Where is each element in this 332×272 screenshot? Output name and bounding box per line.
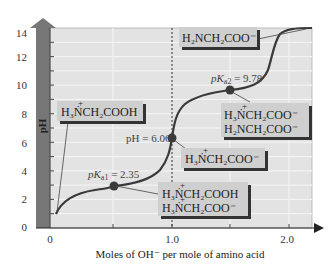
svg-text:12: 12: [16, 51, 27, 63]
y-axis-title: pH: [36, 118, 48, 133]
pi-label: pH = 6.06: [126, 132, 171, 144]
x-axis-title: Moles of OH⁻ per mole of amino acid: [96, 248, 265, 260]
svg-text:H₃ṄCH₂COOH: H₃ṄCH₂COOH: [162, 187, 239, 201]
y-tick-labels: 14 12 10 8 6 4 2 0: [16, 27, 28, 233]
pka1-label: pKa1 = 2.35: [87, 168, 140, 182]
box-deprotonated: H₂NCH₂COO⁻: [179, 27, 260, 50]
titration-chart: pH 14 12 10 8 6 4 2 0 0 1.0 2.0 Moles of…: [0, 0, 332, 272]
svg-text:0: 0: [22, 221, 28, 233]
svg-text:4: 4: [22, 165, 28, 177]
svg-text:8: 8: [22, 108, 28, 120]
svg-text:2: 2: [22, 193, 28, 205]
svg-text:H₂NCH₂COO⁻: H₂NCH₂COO⁻: [224, 122, 298, 136]
svg-text:H₃ṄCH₂COO⁻: H₃ṄCH₂COO⁻: [162, 201, 236, 215]
box-fully-protonated: + H₃ṄCH₂COOH: [57, 98, 146, 124]
box-pka1-mix: + H₃ṄCH₂COOH + H₃ṄCH₂COO⁻: [158, 180, 251, 219]
svg-text:14: 14: [16, 27, 28, 39]
svg-text:0: 0: [47, 233, 53, 245]
box-pka2-mix: + H₃ṄCH₂COO⁻ H₂NCH₂COO⁻: [221, 101, 312, 140]
svg-text:6: 6: [22, 137, 28, 149]
x-tick-labels: 0 1.0 2.0: [47, 233, 294, 245]
svg-text:H₃ṄCH₂COO⁻: H₃ṄCH₂COO⁻: [224, 108, 298, 122]
svg-text:10: 10: [16, 79, 28, 91]
pka2-label: pKa2 = 9.78: [210, 72, 263, 86]
svg-text:H₃ṄCH₂COOH: H₃ṄCH₂COOH: [61, 105, 138, 119]
pka2-point: [226, 86, 235, 95]
svg-text:2.0: 2.0: [280, 233, 294, 245]
svg-text:H₃ṄCH₂COO⁻: H₃ṄCH₂COO⁻: [185, 152, 259, 166]
svg-text:H₂NCH₂COO⁻: H₂NCH₂COO⁻: [182, 31, 256, 45]
box-zwitterion: + H₃ṄCH₂COO⁻: [181, 145, 268, 171]
svg-text:1.0: 1.0: [165, 233, 179, 245]
